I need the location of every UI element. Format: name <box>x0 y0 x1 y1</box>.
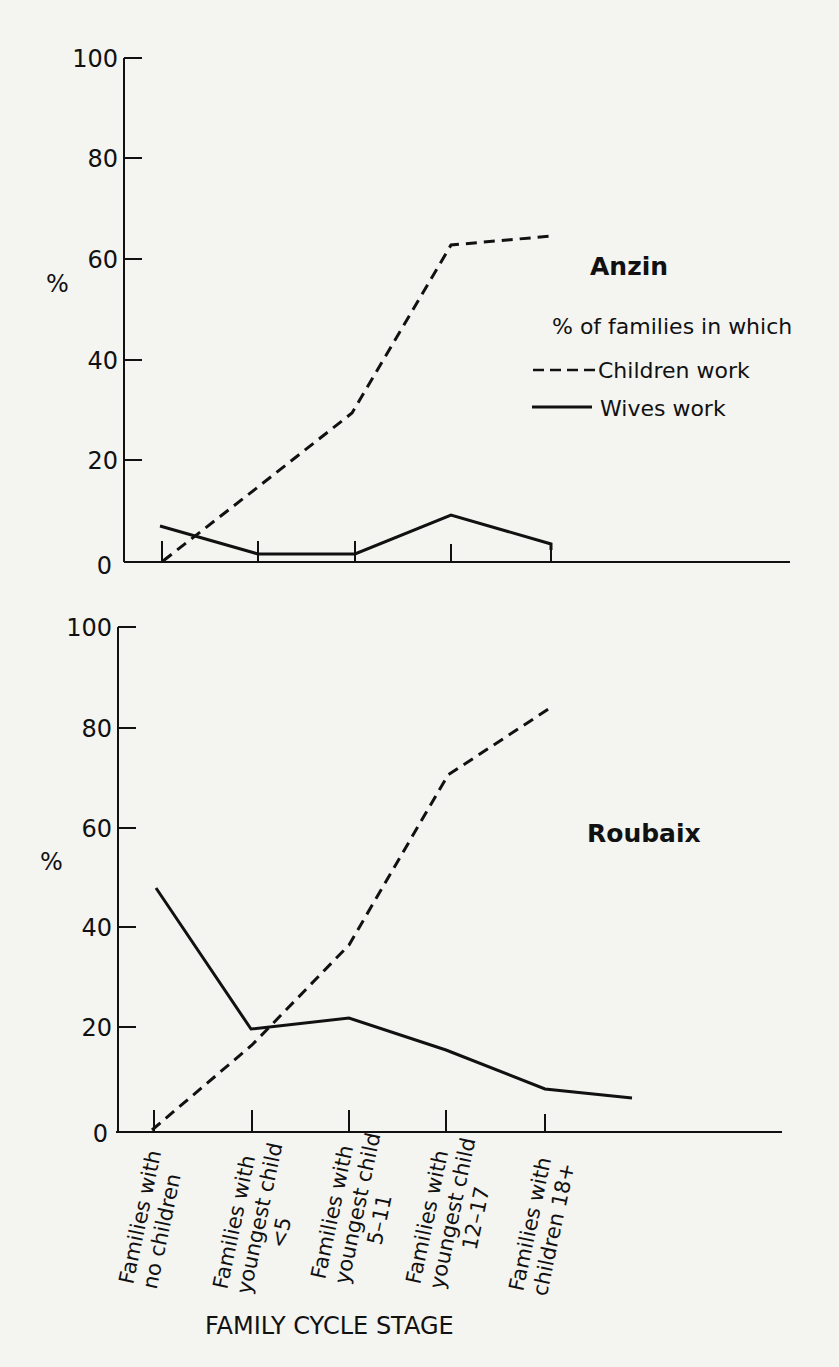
y-axis-label: % <box>40 848 63 876</box>
legend: % of families in which Children work Wiv… <box>532 314 792 421</box>
y-tick-100: 100 <box>66 614 112 642</box>
category-label-2: Families with youngest child <5 <box>208 1129 312 1301</box>
legend-wives: Wives work <box>600 396 726 421</box>
y-tick-20: 20 <box>81 1014 112 1042</box>
category-label-3: Families with youngest child 5–11 <box>306 1119 410 1291</box>
y-tick-60: 60 <box>81 815 112 843</box>
y-tick-100: 100 <box>72 45 118 73</box>
y-tick-20: 20 <box>87 447 118 475</box>
category-label-5: Families with children 18+ <box>504 1148 581 1298</box>
category-label-1: Families with no children <box>114 1141 191 1291</box>
category-label-4: Families with youngest child 12–17 <box>401 1124 505 1296</box>
x-axis-label: FAMILY CYCLE STAGE <box>205 1312 454 1340</box>
y-tick-0: 0 <box>97 552 112 580</box>
y-tick-60: 60 <box>87 246 118 274</box>
figure: 100 80 60 40 20 0 % Anzin % of families … <box>0 0 839 1367</box>
category-labels: Families with no children Families with … <box>114 1119 581 1301</box>
legend-title: % of families in which <box>552 314 792 339</box>
y-tick-80: 80 <box>81 715 112 743</box>
legend-children: Children work <box>598 358 750 383</box>
anzin-children-line <box>163 236 552 561</box>
y-tick-40: 40 <box>87 347 118 375</box>
y-tick-40: 40 <box>81 914 112 942</box>
roubaix-chart: 100 80 60 40 20 0 % Roubaix Families wit… <box>40 614 782 1340</box>
y-axis-label: % <box>46 270 69 298</box>
anzin-chart: 100 80 60 40 20 0 % Anzin % of families … <box>46 45 792 580</box>
y-tick-0: 0 <box>93 1120 108 1148</box>
anzin-title: Anzin <box>590 252 668 281</box>
y-tick-80: 80 <box>87 145 118 173</box>
roubaix-title: Roubaix <box>587 819 701 848</box>
